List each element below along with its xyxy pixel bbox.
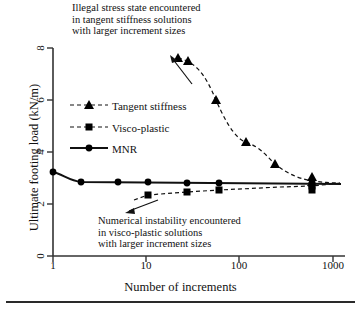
x-tick-label-1000: 1000 <box>318 259 348 271</box>
y-axis-title: Ultimate footing load (kN/m) <box>27 58 42 258</box>
series-tangent-stiffness <box>173 53 340 186</box>
annotation-illegal-stress-line-3: with larger increment sizes <box>72 25 201 37</box>
legend-sample-tangent-stiffness <box>70 100 108 109</box>
annotation-illegal-stress-line-2: in tangent stiffness solutions <box>72 14 201 26</box>
y-tick-label-8: 8 <box>34 41 46 55</box>
legend-label-visco-plastic: Visco-plastic <box>112 122 169 134</box>
x-axis-ticks <box>53 256 333 262</box>
legend-sample-mnr <box>70 145 108 152</box>
series-visco-plastic-markers <box>145 183 316 199</box>
x-tick-label-100: 100 <box>224 259 254 271</box>
x-axis-title: Number of increments <box>0 280 361 295</box>
figure-container: Tangent stiffness Visco-plastic MNR Ille… <box>0 0 361 310</box>
x-tick-label-10: 10 <box>131 259 161 271</box>
legend-sample-visco-plastic <box>70 124 108 131</box>
annotation-numerical-instability: Numerical instability encountered in vis… <box>98 215 241 250</box>
series-mnr-line <box>53 172 341 184</box>
annotation-numerical-instability-line-1: Numerical instability encountered <box>98 215 241 227</box>
legend-label-tangent-stiffness: Tangent stiffness <box>112 100 187 112</box>
x-tick-label-1: 1 <box>38 259 68 271</box>
annotation-numerical-instability-line-3: with larger increment sizes <box>98 238 241 250</box>
annotation-illegal-stress-line-1: Illegal stress state encountered <box>72 2 201 14</box>
annotation-arrow-numerical-instability <box>125 200 158 214</box>
series-tangent-stiffness-markers <box>173 53 317 186</box>
figure-bottom-rule <box>6 301 355 303</box>
legend-label-mnr: MNR <box>112 143 137 155</box>
annotation-illegal-stress: Illegal stress state encountered in tang… <box>72 2 201 37</box>
series-mnr <box>50 169 341 187</box>
series-tangent-stiffness-line <box>178 58 340 183</box>
annotation-numerical-instability-line-2: in visco-plastic solutions <box>98 227 241 239</box>
y-axis-ticks <box>47 48 53 256</box>
